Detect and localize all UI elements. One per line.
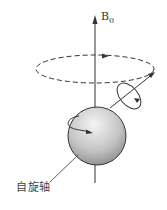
b0-label-main: B	[101, 10, 109, 23]
label-leader-line	[50, 155, 78, 182]
b0-label: B0	[101, 10, 114, 25]
spin-axis-label: 自旋轴	[16, 178, 51, 194]
spin-axis	[110, 72, 155, 113]
b0-label-subscript: 0	[109, 16, 114, 25]
nmr-precession-diagram: B0 自旋轴	[0, 0, 167, 210]
